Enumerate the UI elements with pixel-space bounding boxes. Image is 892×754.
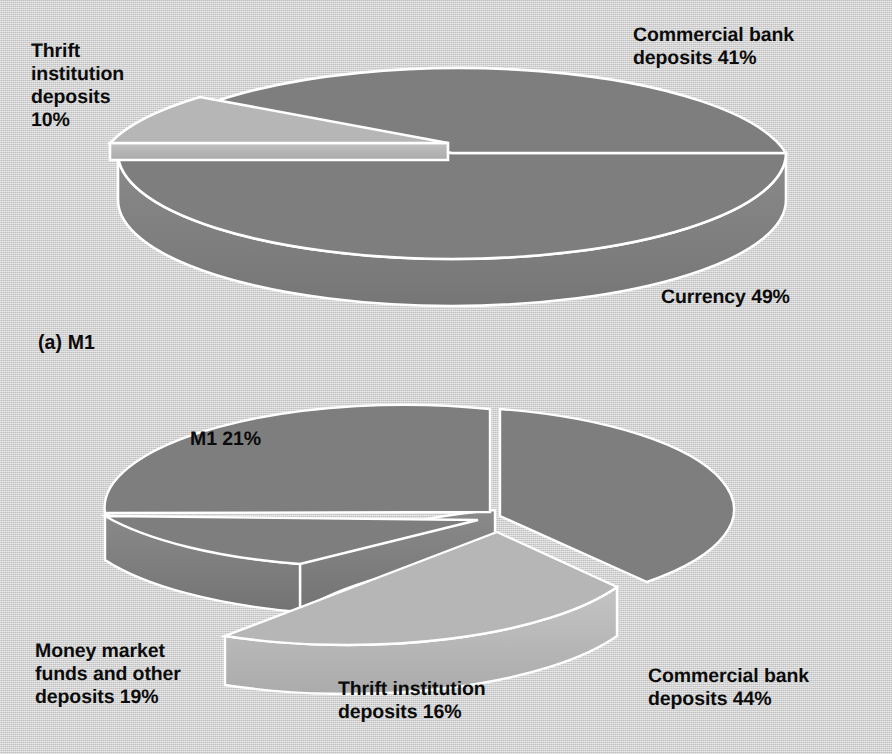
label-m1-currency: Currency 49% bbox=[661, 286, 790, 309]
label-m2-m1: M1 21% bbox=[190, 428, 261, 451]
label-m2-money-market-funds: Money market funds and other deposits 19… bbox=[35, 640, 181, 709]
label-m2-thrift-institution-deposits: Thrift institution deposits 16% bbox=[338, 678, 486, 724]
pie-b-slice-m1-top bbox=[105, 405, 490, 513]
panel-title-a: (a) M1 bbox=[38, 331, 95, 354]
pie-a-geometry bbox=[110, 68, 786, 306]
pie-a-slice-thrift-side bbox=[110, 143, 448, 160]
label-m1-thrift-institution-deposits: Thrift institution deposits 10% bbox=[31, 40, 124, 132]
label-m1-commercial-bank-deposits: Commercial bank deposits 41% bbox=[633, 24, 794, 70]
label-m2-commercial-bank-deposits: Commercial bank deposits 44% bbox=[648, 665, 809, 711]
